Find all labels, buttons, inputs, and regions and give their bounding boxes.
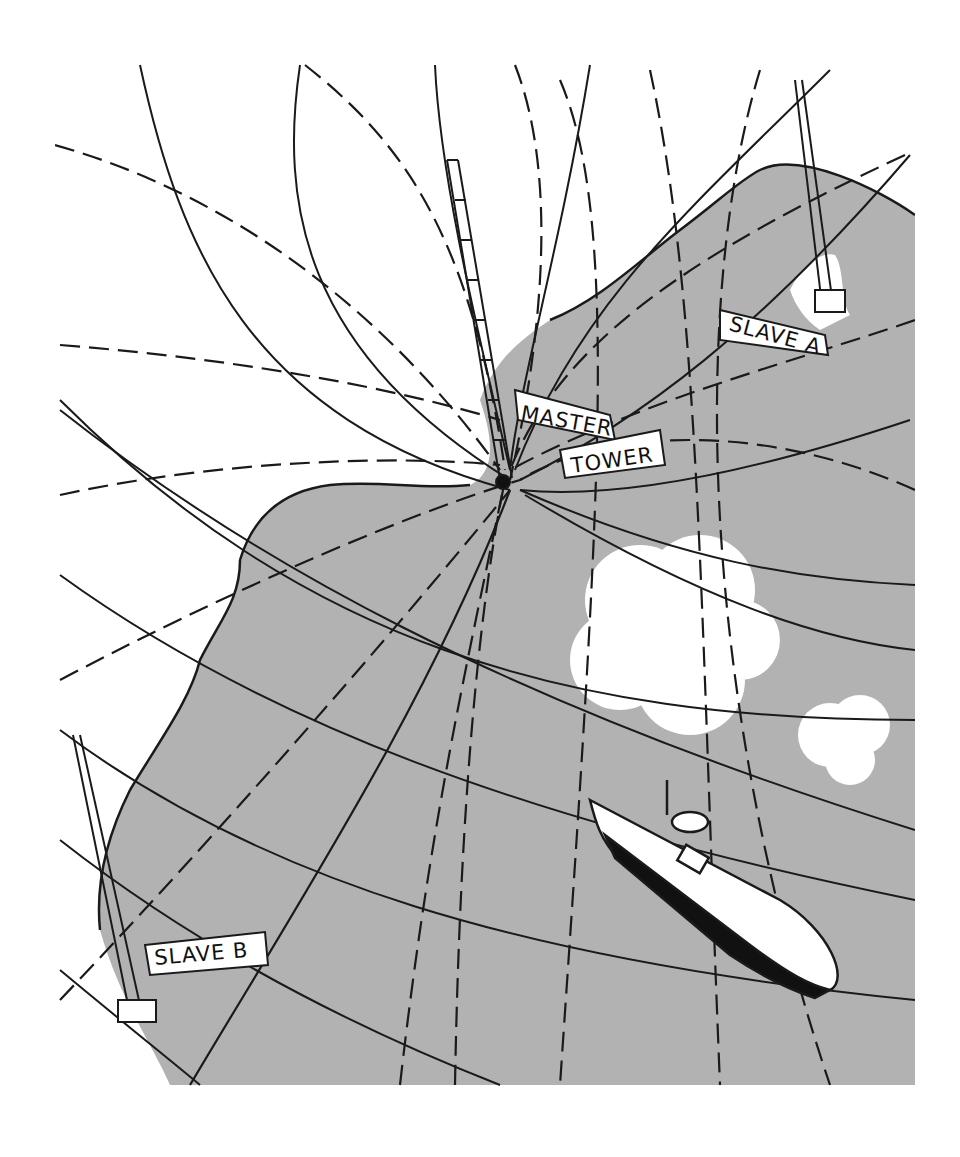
navigation-diagram: MASTER TOWER SLAVE A SLAVE B	[0, 0, 960, 1157]
master-tower	[447, 160, 512, 489]
